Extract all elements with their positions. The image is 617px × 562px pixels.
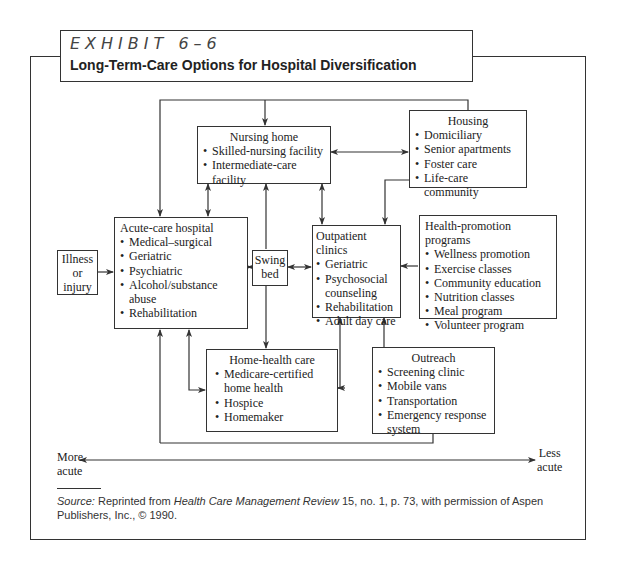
list-item: Mobile vans [378,379,489,393]
list-item: Rehabilitation [316,300,397,314]
nursing-home-node: Nursing home Skilled-nursing facility In… [197,126,331,184]
list-item: Homemaker [215,410,329,424]
list-item: Community education [425,276,551,290]
exhibit-label: EXHIBIT 6–6 [70,34,463,54]
list-item: Volunteer program [425,318,551,332]
source-prefix: Source: [57,495,95,507]
axis-label-line: acute [537,460,562,474]
housing-heading: Housing [415,114,521,128]
list-item: Medical–surgical [120,235,242,249]
exhibit-title-box: EXHIBIT 6–6 Long-Term-Care Options for H… [60,30,473,82]
list-item: Hospice [215,396,329,410]
more-acute-label: More acute [57,450,83,478]
home-health-node: Home-health care Medicare-certified home… [206,349,338,432]
list-item: Adult day care [316,314,397,328]
list-item: Meal program [425,304,551,318]
list-item: Screening clinic [378,365,489,379]
list-item: Transportation [378,394,489,408]
nursing-home-heading: Nursing home [203,130,325,144]
list-item: Skilled-nursing facility [203,144,325,158]
swing-bed-node: Swing bed [252,250,288,286]
axis-label-line: Less [537,446,562,460]
list-item: Wellness promotion [425,247,551,261]
footnote-rule [57,488,101,489]
axis-label-line: More [57,450,83,464]
home-health-heading: Home-health care [215,353,329,367]
illness-node: Illness or injury [57,250,98,295]
source-text: Reprinted from [95,495,174,507]
source-journal: Health Care Management Review [174,495,339,507]
list-item: Psychiatric [120,264,242,278]
illness-line: injury [60,280,95,294]
list-item: Exercise classes [425,262,551,276]
health-promotion-heading: Health-promotion programs [425,219,551,247]
housing-node: Housing Domiciliary Senior apartments Fo… [409,110,527,188]
list-item: Foster care [415,157,521,171]
source-note: Source: Reprinted from Health Care Manag… [57,494,577,522]
swing-bed-line: bed [254,267,286,281]
illness-line: or [60,266,95,280]
list-item: Domiciliary [415,128,521,142]
list-item: Psychosocial counseling [316,272,397,300]
list-item: Senior apartments [415,142,521,156]
exhibit-title: Long-Term-Care Options for Hospital Dive… [70,54,463,76]
acute-care-heading: Acute-care hospital [120,221,242,235]
list-item: Medicare-certified home health [215,367,329,395]
outreach-node: Outreach Screening clinic Mobile vans Tr… [372,347,495,434]
swing-bed-line: Swing [254,253,286,267]
acute-care-node: Acute-care hospital Medical–surgical Ger… [114,217,248,329]
list-item: Intermediate-care facility [203,158,325,186]
health-promotion-node: Health-promotion programs Wellness promo… [419,215,557,319]
list-item: Alcohol/substance abuse [120,278,242,306]
list-item: Life-care community [415,171,521,199]
illness-line: Illness [60,252,95,266]
outpatient-heading: Outpatient clinics [316,229,397,257]
axis-label-line: acute [57,464,83,478]
outpatient-node: Outpatient clinics Geriatric Psychosocia… [312,225,401,318]
list-item: Emergency response system [378,408,489,436]
list-item: Rehabilitation [120,306,242,320]
list-item: Nutrition classes [425,290,551,304]
list-item: Geriatric [120,249,242,263]
outreach-heading: Outreach [378,351,489,365]
list-item: Geriatric [316,257,397,271]
less-acute-label: Less acute [537,446,562,474]
